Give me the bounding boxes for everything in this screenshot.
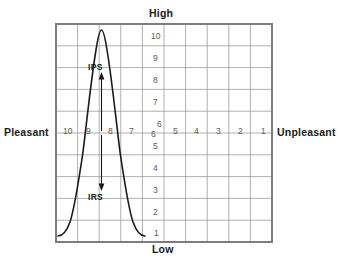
x-tick-4: 4 xyxy=(194,126,199,136)
annotation-label-ips: IPS xyxy=(88,62,103,72)
y-tick-9: 9 xyxy=(153,53,158,63)
x-tick-2: 2 xyxy=(238,126,243,136)
axis-label-pleasant: Pleasant xyxy=(4,126,49,138)
x-tick-6: 6 xyxy=(151,129,156,139)
x-tick-3: 3 xyxy=(216,126,221,136)
x-tick-1: 1 xyxy=(261,126,266,136)
axis-label-low: Low xyxy=(152,243,174,255)
bell-curve-diagram: High Low Pleasant Unpleasant 10 9 8 7 6 … xyxy=(0,0,338,266)
axis-label-unpleasant: Unpleasant xyxy=(277,126,336,138)
x-tick-10: 10 xyxy=(63,126,72,136)
y-tick-4: 4 xyxy=(153,163,158,173)
x-tick-5: 5 xyxy=(173,126,178,136)
y-tick-7: 7 xyxy=(153,97,158,107)
axis-label-high: High xyxy=(149,7,173,19)
y-tick-6: 6 xyxy=(157,119,162,129)
y-tick-10: 10 xyxy=(151,31,160,41)
x-tick-8: 8 xyxy=(108,126,113,136)
y-tick-3: 3 xyxy=(153,185,158,195)
y-tick-2: 2 xyxy=(153,207,158,217)
annotation-label-irs: IRS xyxy=(88,192,103,202)
y-tick-1: 1 xyxy=(154,228,159,238)
x-tick-9: 9 xyxy=(86,126,91,136)
y-tick-8: 8 xyxy=(153,75,158,85)
x-tick-7: 7 xyxy=(129,126,134,136)
y-tick-5: 5 xyxy=(153,141,158,151)
